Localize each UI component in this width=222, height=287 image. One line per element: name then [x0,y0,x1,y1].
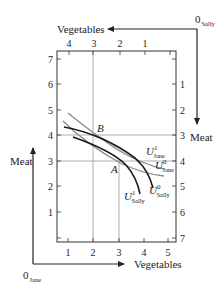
origin-jane-label: 0Jane [23,269,41,283]
svg-text:5: 5 [180,181,185,192]
svg-text:3: 3 [180,130,185,141]
svg-text:4: 4 [180,156,185,167]
curve-u0-sally [64,127,153,188]
svg-text:4: 4 [67,38,72,49]
jane-vegetables-label: Vegetables [134,258,182,270]
svg-text:2: 2 [118,38,123,49]
svg-text:1: 1 [66,247,71,258]
sally-meat-label: Meat [190,131,213,143]
top-tick-labels: 4 3 2 1 [67,38,148,49]
svg-text:7: 7 [180,233,185,244]
svg-text:5: 5 [48,105,53,116]
svg-text:3: 3 [48,156,53,167]
left-tick-labels: 7 6 5 4 3 2 1 [48,54,53,218]
svg-text:2: 2 [48,181,53,192]
curve-u1-sally [73,137,140,194]
edgeworth-box-diagram: B A U1Jane U0Jane U0Sally U1Sally 1 2 3 … [0,0,222,287]
svg-text:7: 7 [48,54,53,65]
svg-text:3: 3 [117,247,122,258]
svg-text:3: 3 [92,38,97,49]
bottom-tick-labels: 1 2 3 4 5 [66,247,171,258]
point-a-label: A [110,163,118,175]
label-u1-sally: U1Sally [124,189,146,204]
label-u1-jane: U1Jane [146,144,165,159]
svg-text:6: 6 [48,79,53,90]
svg-text:1: 1 [143,38,148,49]
svg-text:6: 6 [180,207,185,218]
jane-meat-label: Meat [10,155,33,167]
sally-vegetables-label: Vegetables [57,23,105,35]
svg-text:4: 4 [142,247,147,258]
svg-text:2: 2 [180,105,185,116]
svg-text:2: 2 [91,247,96,258]
right-tick-labels: 1 2 3 4 5 6 7 [180,79,185,244]
point-b-label: B [97,122,104,134]
label-u0-jane: U0Jane [155,158,174,173]
svg-text:1: 1 [48,207,53,218]
svg-text:4: 4 [48,130,53,141]
origin-sally-label: 0Sally [195,13,216,27]
label-u0-sally: U0Sally [149,183,171,198]
svg-text:1: 1 [180,79,185,90]
svg-text:5: 5 [166,247,171,258]
